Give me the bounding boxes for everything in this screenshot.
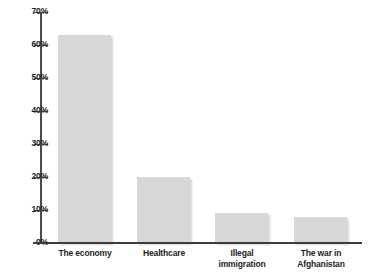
category-label-the-economy: The economy [50,248,120,259]
category-label-illegal-immigration: Illegalimmigration [207,248,277,270]
category-label-line: Healthcare [129,248,199,259]
category-label-the-war-in-afghanistan: The war inAfghanistan [286,248,356,270]
category-label-line: The war in [286,248,356,259]
bar-the-economy [58,35,111,243]
category-label-line: Illegal [207,248,277,259]
bar-the-war-in-afghanistan [294,217,347,243]
category-label-line: The economy [50,248,120,259]
x-axis-line [33,242,362,244]
bar-healthcare [137,177,190,243]
category-label-line: immigration [207,259,277,270]
bars-layer [0,0,369,276]
category-labels: The economy Healthcare Illegalimmigratio… [0,248,369,276]
category-label-healthcare: Healthcare [129,248,199,259]
bar-chart: 70% 60% 50% 40% 30% 20% 10% 0% The econo… [0,0,369,276]
bar-illegal-immigration [215,213,268,243]
category-label-line: Afghanistan [286,259,356,270]
